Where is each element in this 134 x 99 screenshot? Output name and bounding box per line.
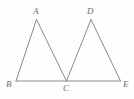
vertex-label-d: D	[87, 7, 94, 16]
vertex-label-a: A	[33, 7, 39, 16]
segment-AB	[16, 20, 37, 82]
segment-DE	[91, 20, 121, 82]
segment-AC	[37, 20, 67, 82]
segment-DC	[67, 20, 92, 82]
vertex-label-e: E	[123, 80, 129, 89]
geometry-figure: A B C D E	[0, 0, 134, 99]
vertex-label-c: C	[63, 84, 69, 93]
vertex-label-b: B	[6, 80, 12, 89]
